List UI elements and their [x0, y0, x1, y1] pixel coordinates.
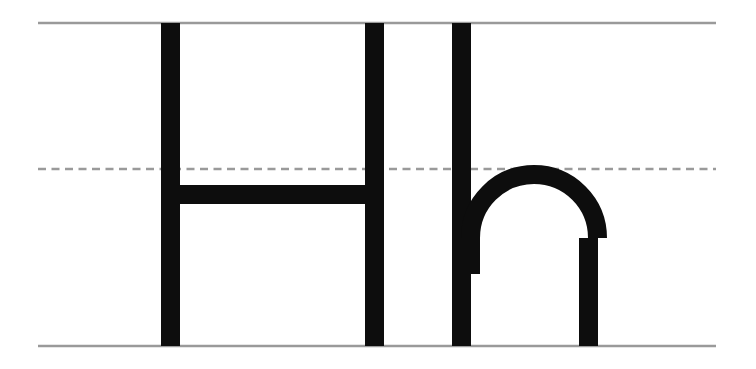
uppercase-h-left-stem [161, 23, 180, 346]
uppercase-h-crossbar [161, 185, 384, 204]
lowercase-h-stem [452, 23, 471, 346]
worksheet-canvas [0, 0, 756, 369]
lowercase-h-right-leg [579, 238, 598, 346]
uppercase-h-right-stem [365, 23, 384, 346]
handwriting-worksheet [0, 0, 756, 369]
